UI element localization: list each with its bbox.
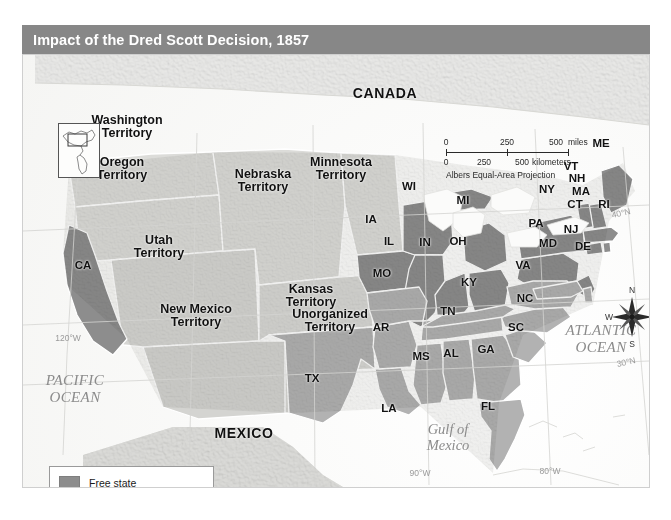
territory-label-unorganized: Unorganized Territory	[292, 308, 368, 334]
state-label-ia: IA	[365, 213, 377, 225]
state-label-tn: TN	[440, 305, 455, 317]
state-label-ny: NY	[539, 183, 555, 195]
state-label-oh: OH	[449, 235, 466, 247]
state-label-sc: SC	[508, 321, 524, 333]
scale-miles-tick-1: 250	[500, 137, 514, 147]
state-label-ca: CA	[75, 259, 92, 271]
locator-inset-map[interactable]	[58, 123, 100, 178]
state-label-md: MD	[539, 237, 557, 249]
scale-km-tick-1: 250	[477, 157, 491, 167]
map-title-bar: Impact of the Dred Scott Decision, 1857	[22, 25, 650, 54]
territory-label-minnesota: Minnesota Territory	[310, 156, 372, 182]
territory-label-oregon: Oregon Territory	[97, 156, 147, 182]
state-label-ga: GA	[477, 343, 494, 355]
state-label-wi: WI	[402, 180, 416, 192]
map-canvas[interactable]: CANADA MEXICO PACIFIC OCEAN ATLANTIC OCE…	[22, 54, 650, 488]
territory-label-washington: Washington Territory	[91, 114, 162, 140]
scale-km-tick-0: 0	[444, 157, 449, 167]
scale-miles-tick-0: 0	[444, 137, 449, 147]
scale-bar: 0 250 500 miles 0 250 500 kilometers Alb…	[446, 137, 596, 180]
state-label-ar: AR	[373, 321, 390, 333]
compass-rose: N E S W	[604, 286, 650, 348]
state-label-mi: MI	[457, 194, 470, 206]
scale-bar-line	[446, 149, 596, 156]
state-label-ms: MS	[412, 350, 429, 362]
country-label-mexico: MEXICO	[215, 426, 274, 441]
state-label-il: IL	[384, 235, 394, 247]
territory-label-new-mexico: New Mexico Territory	[160, 303, 232, 329]
territory-label-utah: Utah Territory	[134, 234, 184, 260]
map-page: Impact of the Dred Scott Decision, 1857	[0, 0, 671, 520]
legend-item-free-state[interactable]: Free state	[59, 473, 213, 488]
legend-label-free-state: Free state	[89, 477, 136, 489]
legend-swatch-free-state	[59, 476, 80, 488]
scale-projection-label: Albers Equal-Area Projection	[446, 170, 596, 180]
water-label-gulf-of-mexico: Gulf of Mexico	[427, 421, 470, 453]
locator-inset-geometry	[59, 124, 99, 177]
state-label-ma: MA	[572, 185, 590, 197]
territory-minnesota-line2: Territory	[310, 169, 372, 182]
graticule-label-120w: 120°W	[55, 333, 81, 343]
compass-label-n: N	[629, 285, 635, 295]
state-label-fl: FL	[481, 400, 495, 412]
scale-km-unit: kilometers	[532, 157, 571, 167]
page-title: Impact of the Dred Scott Decision, 1857	[22, 32, 309, 48]
country-label-canada: CANADA	[353, 86, 417, 101]
state-label-va: VA	[515, 259, 530, 271]
water-label-pacific-line1: PACIFIC	[46, 372, 104, 389]
state-label-ky: KY	[461, 276, 477, 288]
scale-km-labels: 0 250 500 kilometers	[446, 157, 596, 168]
water-label-gulf-line1: Gulf of	[427, 421, 470, 437]
graticule-label-80w: 80°W	[540, 466, 561, 476]
water-label-gulf-line2: Mexico	[427, 437, 470, 453]
territory-washington-line2: Territory	[91, 127, 162, 140]
territory-label-kansas: Kansas Territory	[286, 283, 336, 309]
territory-new-mexico-line2: Territory	[160, 316, 232, 329]
territory-unorganized-line2: Territory	[292, 321, 368, 334]
state-label-mo: MO	[373, 267, 392, 279]
territory-utah-line2: Territory	[134, 247, 184, 260]
state-label-nc: NC	[517, 292, 534, 304]
territory-oregon-line2: Territory	[97, 169, 147, 182]
territory-label-nebraska: Nebraska Territory	[235, 168, 291, 194]
compass-label-w: W	[605, 312, 613, 322]
scale-miles-tick-2: 500	[549, 137, 563, 147]
scale-miles-labels: 0 250 500 miles	[446, 137, 596, 148]
state-label-al: AL	[443, 347, 458, 359]
scale-miles-unit: miles	[568, 137, 588, 147]
state-label-ct: CT	[567, 198, 582, 210]
scale-km-tick-2: 500	[515, 157, 529, 167]
state-label-la: LA	[381, 402, 396, 414]
state-label-de: DE	[575, 240, 591, 252]
graticule-label-90w: 90°W	[410, 468, 431, 478]
compass-label-s: S	[629, 339, 635, 349]
water-label-pacific-line2: OCEAN	[46, 389, 104, 406]
state-label-ri: RI	[598, 198, 610, 210]
map-legend: Free state Slave state Territory open to…	[49, 466, 214, 488]
territory-nebraska-line2: Territory	[235, 181, 291, 194]
water-label-pacific: PACIFIC OCEAN	[46, 372, 104, 406]
state-label-tx: TX	[305, 372, 320, 384]
state-label-in: IN	[419, 236, 431, 248]
state-label-nj: NJ	[564, 223, 579, 235]
state-label-pa: PA	[528, 217, 543, 229]
